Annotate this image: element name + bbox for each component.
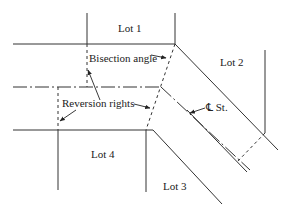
centerline-arrow [190, 108, 205, 113]
lot2-label: Lot 2 [220, 56, 244, 68]
lot4-label: Lot 4 [91, 148, 115, 160]
reversion-arrow-up [88, 70, 100, 100]
reversion-arrow-down [60, 110, 76, 121]
bisection-angle-label: Bisection angle [89, 52, 157, 64]
street-plat-diagram: Lot 1 Lot 2 Lot 3 Lot 4 Bisection angle … [0, 0, 290, 214]
lot1-label: Lot 1 [118, 22, 142, 34]
lot3-label: Lot 3 [163, 180, 187, 192]
leader-arrows [60, 55, 205, 121]
lot-lines [13, 13, 278, 204]
reversion-arrow-right [134, 104, 150, 108]
centerline-street-label: ℄ St. [205, 101, 228, 113]
lower-diagonal-street-line [153, 130, 222, 204]
reversion-rights-label: Reversion rights [62, 97, 134, 109]
lot2-lot3-extension-dashed [237, 133, 265, 162]
